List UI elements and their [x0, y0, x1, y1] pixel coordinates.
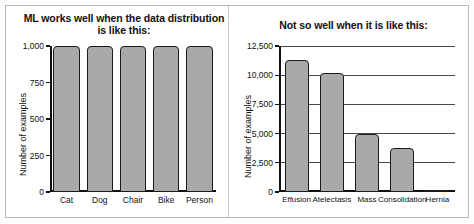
- bar[interactable]: [425, 190, 449, 192]
- x-tick-label: Atelectasis: [312, 195, 351, 204]
- y-tick-label-left: 1,000: [23, 41, 44, 51]
- bar[interactable]: [320, 73, 344, 192]
- plot-area-left: CatDogChairBikePerson 02505007501,000: [50, 46, 216, 192]
- y-tick-label-left: 250: [30, 151, 44, 161]
- x-tick-label: Dog: [92, 195, 108, 205]
- figure-container: ML works well when the data distribution…: [0, 0, 474, 224]
- x-tick-label: Hernia: [426, 195, 450, 204]
- y-tick-right: [275, 45, 279, 46]
- bar[interactable]: [120, 46, 147, 192]
- y-tick-label-right: 5,000: [252, 129, 273, 139]
- y-tick-right: [275, 104, 279, 105]
- x-tick-label: Person: [186, 195, 213, 205]
- bar-slot: Atelectasis: [314, 46, 349, 192]
- bar[interactable]: [285, 60, 309, 192]
- bar[interactable]: [390, 148, 414, 192]
- bar[interactable]: [87, 46, 114, 192]
- bar-slot: Effusion: [279, 46, 314, 192]
- y-axis-label-left: Number of examples: [18, 93, 28, 176]
- chart-title-left: ML works well when the data distribution…: [6, 13, 228, 36]
- y-tick-right: [275, 75, 279, 76]
- y-tick-left: [46, 191, 50, 192]
- y-tick-left: [46, 82, 50, 83]
- y-tick-label-right: 7,500: [252, 99, 273, 109]
- plot-area-right: EffusionAtelectasisMassConsolidationHern…: [279, 46, 455, 192]
- y-tick-label-left: 500: [30, 114, 44, 124]
- x-tick-label: Cat: [60, 195, 73, 205]
- bar[interactable]: [355, 134, 379, 192]
- bar-slot: Dog: [83, 46, 116, 192]
- y-tick-left: [46, 45, 50, 46]
- y-tick-label-right: 12,500: [247, 41, 273, 51]
- y-tick-label-right: 10,000: [247, 70, 273, 80]
- y-tick-label-right: 0: [268, 187, 273, 197]
- bar[interactable]: [186, 46, 213, 192]
- bar[interactable]: [53, 46, 80, 192]
- bar-slot: Mass: [349, 46, 384, 192]
- bar-slot: Chair: [116, 46, 149, 192]
- bar-slot: Person: [183, 46, 216, 192]
- x-tick-label: Effusion: [282, 195, 311, 204]
- chart-panel-right: Not so well when it is like this: Number…: [229, 6, 468, 217]
- y-tick-right: [275, 133, 279, 134]
- y-tick-right: [275, 162, 279, 163]
- bar-slot: Hernia: [420, 46, 455, 192]
- x-tick-label: Bike: [158, 195, 175, 205]
- bar-group-right: EffusionAtelectasisMassConsolidationHern…: [279, 46, 455, 192]
- y-tick-label-left: 750: [30, 78, 44, 88]
- bar-slot: Consolidation: [385, 46, 420, 192]
- y-tick-left: [46, 118, 50, 119]
- y-tick-right: [275, 191, 279, 192]
- y-tick-label-left: 0: [39, 187, 44, 197]
- x-tick-label: Consolidation: [378, 195, 426, 204]
- y-tick-left: [46, 155, 50, 156]
- chart-title-right: Not so well when it is like this:: [229, 20, 468, 32]
- y-tick-label-right: 2,500: [252, 158, 273, 168]
- chart-panel-left: ML works well when the data distribution…: [6, 6, 228, 217]
- x-tick-label: Chair: [123, 195, 143, 205]
- x-tick-label: Mass: [357, 195, 376, 204]
- bar-slot: Cat: [50, 46, 83, 192]
- bar-slot: Bike: [150, 46, 183, 192]
- bar-group-left: CatDogChairBikePerson: [50, 46, 216, 192]
- bar[interactable]: [153, 46, 180, 192]
